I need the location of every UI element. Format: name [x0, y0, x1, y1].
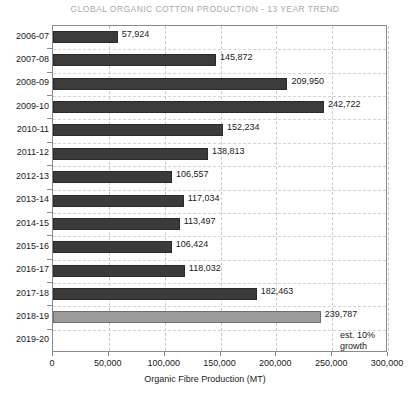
bar-row: 106,557: [53, 166, 386, 189]
bar-value-label: 152,234: [227, 122, 260, 132]
annotation-growth-line2: growth: [340, 341, 367, 352]
bar-2012-13[interactable]: [53, 171, 172, 183]
plot-area: 57,924145,872209,950242,722152,234138,81…: [52, 25, 387, 352]
bar-row: 152,234: [53, 119, 386, 142]
bar-value-label: 118,032: [189, 263, 221, 273]
y-tick-label-2006-07: 2006-07: [0, 31, 49, 41]
bar-value-label: 138,813: [212, 146, 245, 156]
bar-2017-18[interactable]: [53, 288, 257, 300]
x-tick-label-50,000: 50,000: [94, 358, 122, 368]
bar-value-label: 239,787: [325, 309, 358, 319]
x-tick-mark: [164, 352, 165, 356]
x-tick-label-300,000: 300,000: [371, 358, 404, 368]
y-tick-label-2009-10: 2009-10: [0, 101, 49, 111]
y-tick-mark: [47, 189, 52, 190]
bar-2015-16[interactable]: [53, 241, 172, 253]
x-tick-label-150,000: 150,000: [203, 358, 236, 368]
bar-row: 138,813: [53, 143, 386, 166]
bar-2011-12[interactable]: [53, 148, 208, 160]
y-tick-label-2008-09: 2008-09: [0, 77, 49, 87]
x-tick-mark: [331, 352, 332, 356]
y-tick-label-2017-18: 2017-18: [0, 288, 49, 298]
x-tick-mark: [52, 352, 53, 356]
bar-row: 118,032: [53, 260, 386, 283]
bar-row: 117,034: [53, 190, 386, 213]
bar-2008-09[interactable]: [53, 78, 287, 90]
y-tick-mark: [47, 212, 52, 213]
annotation-growth-line1: est. 10%: [340, 330, 375, 341]
bar-row: [53, 330, 386, 353]
bar-value-label: 145,872: [220, 52, 253, 62]
x-tick-mark: [220, 352, 221, 356]
bar-2006-07[interactable]: [53, 31, 118, 43]
y-tick-label-2016-17: 2016-17: [0, 264, 49, 274]
bar-series: 57,924145,872209,950242,722152,234138,81…: [53, 26, 386, 351]
y-tick-mark: [47, 72, 52, 73]
x-tick-mark: [387, 352, 388, 356]
y-tick-label-2007-08: 2007-08: [0, 54, 49, 64]
bar-row: 182,463: [53, 283, 386, 306]
y-tick-label-2018-19: 2018-19: [0, 311, 49, 321]
bar-row: 242,722: [53, 96, 386, 119]
bar-row: 145,872: [53, 49, 386, 72]
bar-2018-19[interactable]: [53, 311, 321, 323]
bar-2013-14[interactable]: [53, 195, 184, 207]
bar-2016-17[interactable]: [53, 265, 185, 277]
bar-value-label: 106,557: [176, 169, 209, 179]
y-tick-label-2014-15: 2014-15: [0, 218, 49, 228]
x-tick-label-250,000: 250,000: [315, 358, 348, 368]
chart-container: GLOBAL ORGANIC COTTON PRODUCTION - 13 YE…: [0, 0, 410, 395]
y-tick-mark: [47, 235, 52, 236]
x-tick-label-200,000: 200,000: [259, 358, 292, 368]
bar-value-label: 117,034: [188, 193, 220, 203]
bar-value-label: 57,924: [122, 29, 150, 39]
bar-row: 106,424: [53, 236, 386, 259]
x-axis-title: Organic Fibre Production (MT): [0, 374, 410, 384]
bar-2014-15[interactable]: [53, 218, 180, 230]
bar-value-label: 182,463: [261, 286, 294, 296]
y-tick-mark: [47, 142, 52, 143]
y-tick-label-2011-12: 2011-12: [0, 147, 49, 157]
y-tick-mark: [47, 48, 52, 49]
x-tick-label-100,000: 100,000: [147, 358, 180, 368]
bar-2009-10[interactable]: [53, 101, 324, 113]
y-tick-mark: [47, 305, 52, 306]
bar-row: 57,924: [53, 26, 386, 49]
gridline-vertical: [388, 26, 389, 351]
x-tick-mark: [108, 352, 109, 356]
bar-2007-08[interactable]: [53, 54, 216, 66]
bar-value-label: 113,497: [184, 216, 216, 226]
y-tick-mark: [47, 165, 52, 166]
bar-row: 209,950: [53, 73, 386, 96]
y-tick-label-2013-14: 2013-14: [0, 194, 49, 204]
y-tick-mark: [47, 95, 52, 96]
y-tick-label-2010-11: 2010-11: [0, 124, 49, 134]
bar-row: 113,497: [53, 213, 386, 236]
y-tick-label-2019-20: 2019-20: [0, 334, 49, 344]
y-tick-mark: [47, 329, 52, 330]
x-tick-label-0: 0: [49, 358, 54, 368]
bar-value-label: 242,722: [328, 99, 361, 109]
y-tick-label-2012-13: 2012-13: [0, 171, 49, 181]
y-tick-label-2015-16: 2015-16: [0, 241, 49, 251]
bar-row: 239,787: [53, 306, 386, 329]
chart-title: GLOBAL ORGANIC COTTON PRODUCTION - 13 YE…: [0, 4, 410, 14]
bar-2010-11[interactable]: [53, 124, 223, 136]
y-tick-mark: [47, 259, 52, 260]
x-tick-mark: [275, 352, 276, 356]
y-tick-mark: [47, 118, 52, 119]
y-tick-mark: [47, 282, 52, 283]
bar-value-label: 106,424: [176, 239, 209, 249]
bar-value-label: 209,950: [291, 76, 324, 86]
